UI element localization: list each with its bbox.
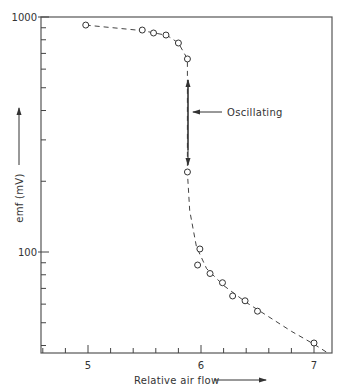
plot-frame (41, 17, 332, 353)
data-point-marker (139, 27, 145, 33)
data-point-marker (195, 262, 201, 268)
y-tick-label-1000: 1000 (12, 12, 37, 23)
x-tick-label-5: 5 (85, 360, 91, 371)
x-tick-label-7: 7 (311, 360, 317, 371)
data-point-marker (184, 56, 190, 62)
y-axis-title: emf (mV) (14, 173, 25, 222)
x-tick-label-6: 6 (198, 360, 204, 371)
data-point-marker (311, 340, 317, 346)
data-point-marker (151, 30, 157, 36)
y-axis-ticks (38, 17, 49, 346)
data-point-marker (184, 169, 190, 175)
data-point-marker (197, 246, 203, 252)
data-point-marker (242, 298, 248, 304)
data-point-marker (230, 293, 236, 299)
y-tick-label-100: 100 (18, 247, 37, 258)
x-axis-ticks (43, 345, 314, 353)
chart-canvas: 1000 100 5 6 7 Oscillating emf (mV) Rela… (0, 0, 344, 390)
data-point-marker (207, 271, 213, 277)
data-points (83, 22, 317, 346)
dashed-trend-curve (86, 25, 329, 353)
data-point-marker (83, 22, 89, 28)
data-point-marker (163, 32, 169, 38)
data-point-marker (255, 308, 261, 314)
data-point-marker (175, 40, 181, 46)
oscillating-label: Oscillating (227, 107, 283, 118)
x-axis-title: Relative air flow (134, 375, 219, 386)
data-point-marker (219, 280, 225, 286)
